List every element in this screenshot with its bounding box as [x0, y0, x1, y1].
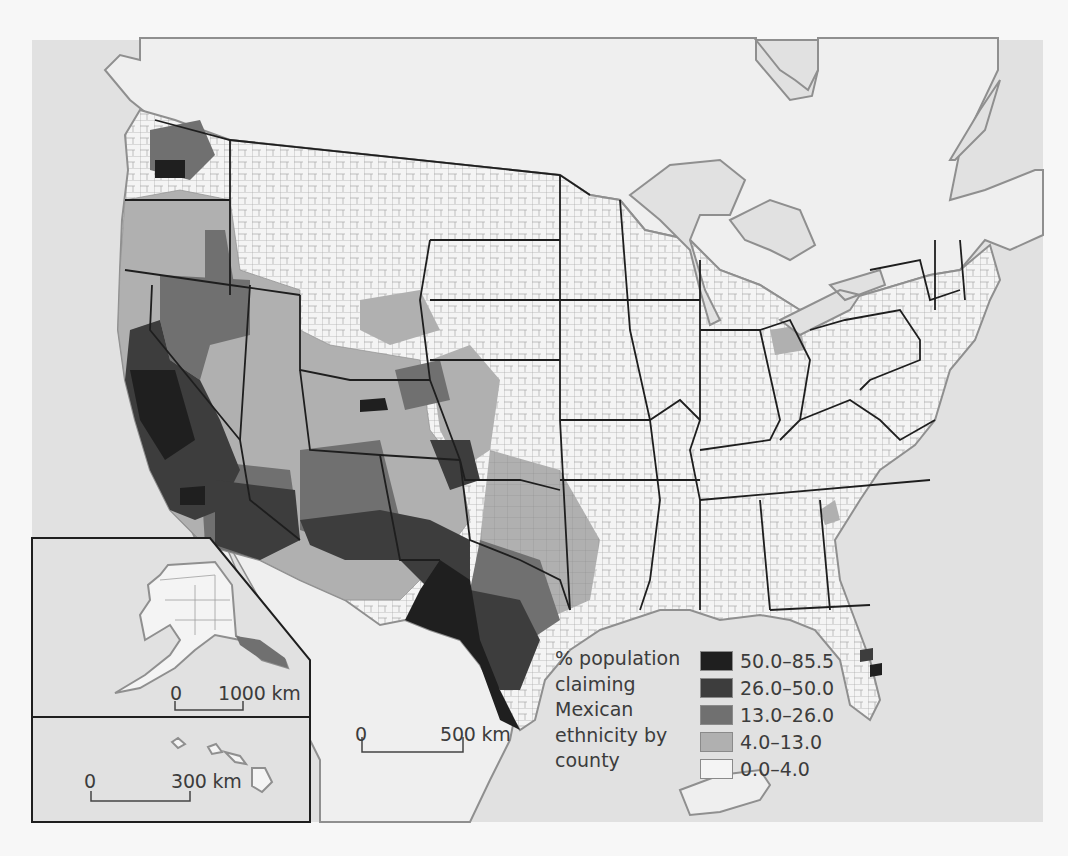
legend-label: 4.0–13.0 [740, 731, 822, 753]
scale-alaska-zero: 0 [170, 681, 182, 705]
legend-item: 13.0–26.0 [700, 704, 834, 725]
legend-label: 50.0–85.5 [740, 650, 834, 672]
legend-item: 26.0–50.0 [700, 677, 834, 698]
legend-label: 26.0–50.0 [740, 677, 834, 699]
legend-title-line: ethnicity by [555, 723, 705, 749]
legend-swatch [700, 732, 733, 752]
scale-hawaii-zero: 0 [84, 769, 96, 793]
scale-main-zero: 0 [355, 722, 367, 746]
scale-main-end: 500 km [440, 722, 511, 746]
legend-swatch [700, 651, 733, 671]
legend-title: % population claiming Mexican ethnicity … [555, 646, 705, 774]
legend-swatch [700, 759, 733, 779]
legend-item: 4.0–13.0 [700, 731, 822, 752]
class-50-85-florida [870, 663, 882, 677]
scale-alaska-end: 1000 km [218, 681, 301, 705]
legend-title-line: county [555, 748, 705, 774]
legend-item: 50.0–85.5 [700, 650, 834, 671]
legend-item: 0.0–4.0 [700, 758, 810, 779]
legend-swatch [700, 678, 733, 698]
legend-title-line: % population [555, 646, 705, 672]
legend-swatch [700, 705, 733, 725]
class-50-85-yakima [155, 160, 185, 178]
class-50-85-colorado-pueblo [360, 398, 388, 412]
class-50-85-imperial [180, 486, 205, 505]
legend-title-line: Mexican [555, 697, 705, 723]
legend-label: 13.0–26.0 [740, 704, 834, 726]
choropleth-map [0, 0, 1068, 856]
legend-label: 0.0–4.0 [740, 758, 810, 780]
class-26-50-florida [860, 648, 873, 662]
scale-hawaii-end: 300 km [171, 769, 242, 793]
legend-title-line: claiming [555, 672, 705, 698]
